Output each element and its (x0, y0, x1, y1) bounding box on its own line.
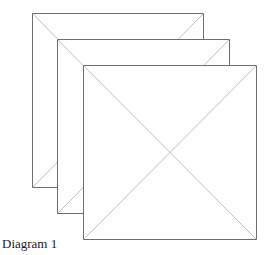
diagram-caption: Diagram 1 (2, 236, 57, 252)
square-front (84, 66, 257, 240)
stacked-squares-diagram (0, 0, 269, 255)
